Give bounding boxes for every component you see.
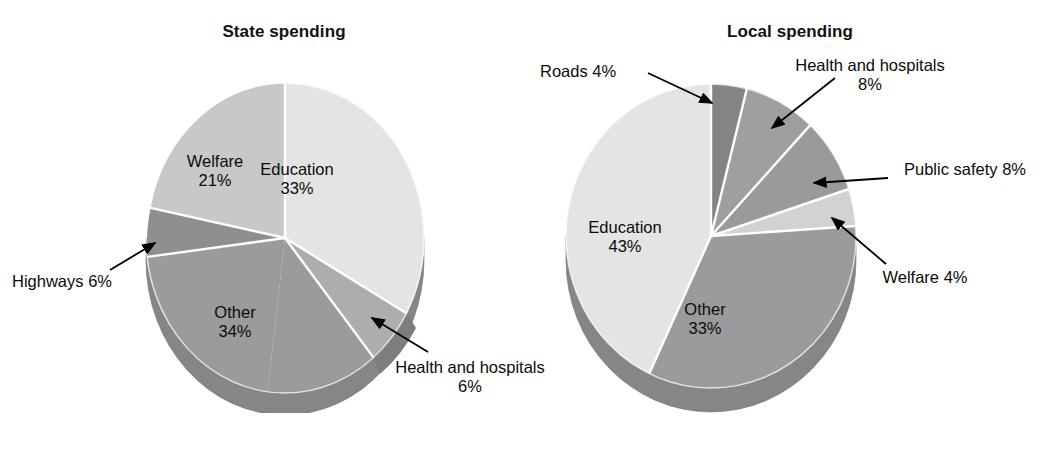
label-public-safety-local-pct: 8%: [1002, 160, 1026, 178]
label-other-local-pct: 33%: [655, 319, 755, 338]
leader-line-welfare-local: [0, 0, 960, 320]
figure-canvas: State spending Educ: [0, 0, 1046, 465]
